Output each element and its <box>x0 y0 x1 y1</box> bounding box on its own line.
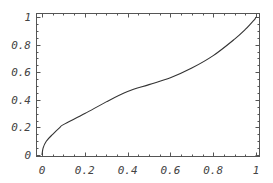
tick-label: 0.8 <box>203 164 223 177</box>
chart: 00.20.40.60.8100.20.40.60.81 <box>0 0 273 183</box>
tick-label: 0.6 <box>11 66 31 79</box>
data-curve <box>42 17 256 155</box>
tick-label: 1 <box>253 164 260 177</box>
tick-label: 1 <box>24 11 31 24</box>
tick-label: 0 <box>39 164 46 177</box>
tick-label: 0.2 <box>11 121 31 134</box>
tick-label: 0 <box>24 149 31 162</box>
tick-labels: 00.20.40.60.8100.20.40.60.81 <box>11 11 259 177</box>
tick-label: 0.4 <box>118 164 138 177</box>
tick-label: 0.2 <box>75 164 95 177</box>
tick-label: 0.4 <box>11 94 31 107</box>
tick-label: 0.8 <box>11 39 31 52</box>
tick-label: 0.6 <box>160 164 180 177</box>
